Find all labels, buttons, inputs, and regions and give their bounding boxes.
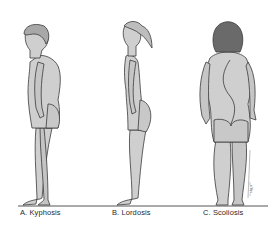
label-scoliosis: C. Scoliosis xyxy=(203,208,243,217)
figure-scoliosis xyxy=(200,22,256,205)
label-lordosis: B. Lordosis xyxy=(112,208,151,217)
illustration-canvas: ~sign~ A. Kyphosis B. Lordosis C. Scolio… xyxy=(0,0,280,230)
figure-lordosis xyxy=(117,22,152,206)
artist-signature: ~sign~ xyxy=(248,182,253,196)
posture-figures: ~sign~ xyxy=(0,0,280,230)
figure-kyphosis xyxy=(23,24,60,205)
label-kyphosis: A. Kyphosis xyxy=(20,208,61,217)
